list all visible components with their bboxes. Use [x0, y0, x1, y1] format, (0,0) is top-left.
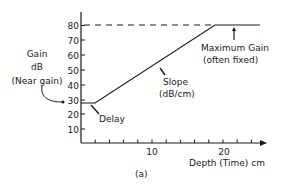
- y-tick-label: 40: [68, 81, 80, 91]
- y-tick-label: 60: [68, 51, 80, 61]
- slope-arrow-icon: [160, 68, 165, 75]
- figure-caption: (a): [135, 169, 148, 179]
- x-axis-arrow-icon: [260, 140, 267, 146]
- y-tick-label: 10: [68, 125, 80, 135]
- slope-unit-label: (dB/cm): [159, 89, 195, 99]
- y-tick-label: 50: [68, 66, 80, 76]
- delay-arrow-icon: [91, 105, 99, 114]
- y-tick-label: 70: [68, 36, 80, 46]
- chart: 80 70 60 50 40 30 20 10 10 20 Depth (Tim…: [0, 0, 281, 195]
- delay-label: Delay: [99, 114, 125, 124]
- max-gain-arrow-head-icon: [232, 27, 236, 31]
- near-gain-arrow-head-icon: [62, 101, 65, 104]
- x-tick-label: 10: [146, 147, 158, 157]
- near-gain-arrow-icon: [42, 86, 62, 102]
- x-tick-label: 20: [218, 147, 230, 157]
- slope-label: Slope: [163, 77, 188, 87]
- y-tick-label: 20: [68, 110, 80, 120]
- db-label: dB: [31, 62, 43, 72]
- gain-label: Gain: [27, 49, 48, 59]
- near-gain-label: (Near gain): [12, 76, 63, 86]
- y-tick-label: 80: [68, 21, 80, 31]
- max-gain-note-label: (often fixed): [203, 55, 258, 65]
- max-gain-label: Maximum Gain: [201, 43, 269, 53]
- x-axis-label: Depth (Time) cm: [189, 158, 265, 168]
- y-tick-label: 30: [68, 96, 80, 106]
